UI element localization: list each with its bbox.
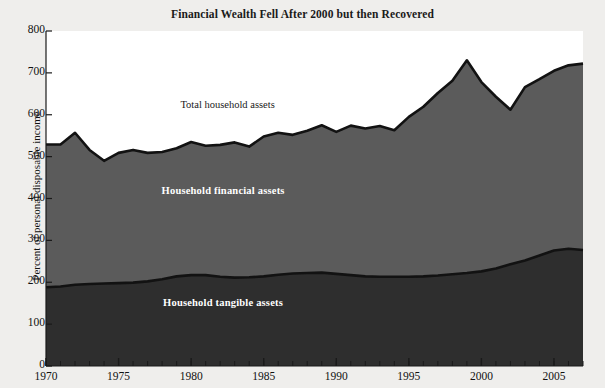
chart-plot-area	[0, 0, 605, 388]
x-tick-label: 1995	[389, 370, 429, 382]
x-tick-label: 1970	[26, 370, 66, 382]
series-label: Household tangible assets	[163, 297, 283, 308]
x-tick-label: 1975	[99, 370, 139, 382]
series-label: Total household assets	[180, 99, 274, 110]
x-tick-label: 1980	[171, 370, 211, 382]
series-label: Household financial assets	[162, 185, 285, 196]
x-tick-label: 1990	[316, 370, 356, 382]
x-tick-label: 2005	[534, 370, 574, 382]
x-tick-label: 2000	[461, 370, 501, 382]
x-tick-label: 1985	[244, 370, 284, 382]
chart-container: Financial Wealth Fell After 2000 but the…	[0, 0, 605, 388]
